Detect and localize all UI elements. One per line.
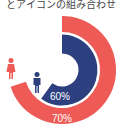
male-progress-ring — [47, 44, 88, 96]
female-percent-label: 70% — [52, 113, 72, 124]
male-percent-label: 60% — [50, 91, 70, 102]
radial-progress-chart: 60% 70% — [0, 0, 121, 129]
male-icon — [34, 72, 41, 93]
female-icon — [7, 58, 16, 79]
